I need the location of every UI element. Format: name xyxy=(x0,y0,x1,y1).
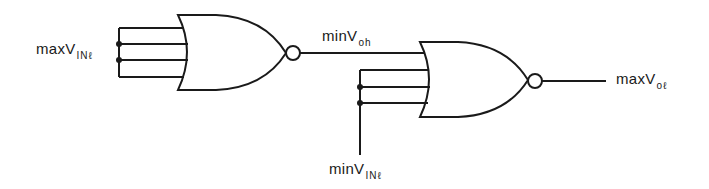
junction-dot xyxy=(357,84,363,90)
label-min-v-in-low: minVINℓ xyxy=(329,160,382,177)
nor-gate-2 xyxy=(420,42,528,117)
label-max-v-ol: maxVoℓ xyxy=(616,70,667,87)
junction-dot xyxy=(357,100,363,106)
label-max-v-in-low: maxVINℓ xyxy=(36,40,93,57)
junction-dot xyxy=(116,57,122,63)
label-min-v-oh: minVoh xyxy=(322,27,372,44)
gate-1-inputs xyxy=(116,28,188,77)
nor-gate-1 xyxy=(178,15,286,90)
inverter-bubble-2 xyxy=(528,74,542,88)
gate-2-inputs xyxy=(357,70,430,155)
junction-dot xyxy=(116,41,122,47)
inverter-bubble-1 xyxy=(286,46,300,60)
